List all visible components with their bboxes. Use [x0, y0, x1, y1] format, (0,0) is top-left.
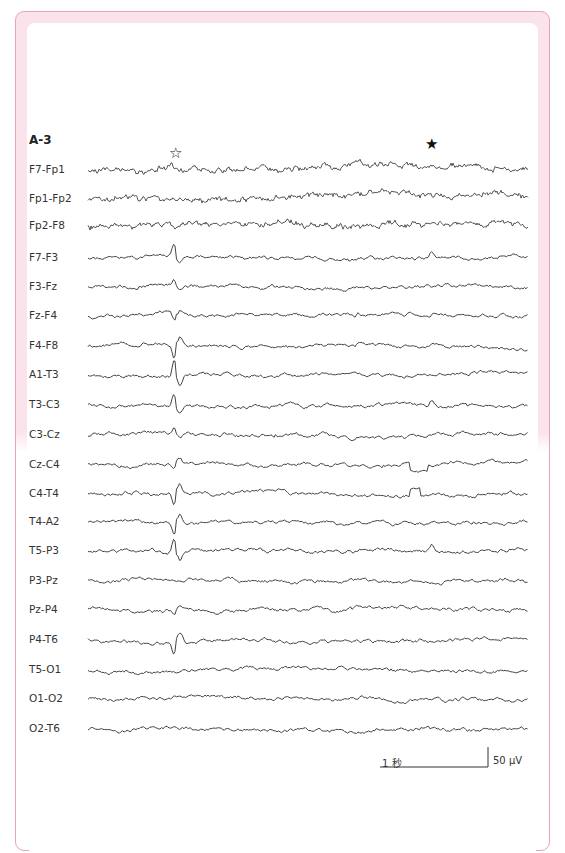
time-scale-label: 1 秒: [382, 755, 402, 770]
amplitude-scale-label: 50 μV: [493, 755, 522, 766]
